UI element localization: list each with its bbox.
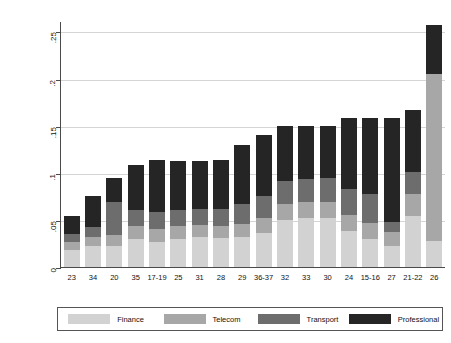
legend-item-professional[interactable]: Professional <box>346 314 442 324</box>
bar-segment-finance <box>405 216 421 267</box>
bar-segment-telecom <box>341 215 357 231</box>
x-tick-label: 20 <box>104 273 125 282</box>
bar-segment-transport <box>149 212 165 229</box>
legend-swatch-finance <box>68 314 110 324</box>
legend-label: Transport <box>307 315 339 324</box>
bar-segment-professional <box>106 178 122 202</box>
bar-segment-professional <box>64 216 80 234</box>
bar-segment-professional <box>192 161 208 208</box>
legend-label: Finance <box>117 315 144 324</box>
legend-swatch-professional <box>349 314 391 324</box>
bar-segment-finance <box>277 220 293 267</box>
x-tick-label: 15-16 <box>360 273 381 282</box>
x-tick-label: 34 <box>82 273 103 282</box>
stacked-bar-chart: Services input intensity in manufacturin… <box>0 0 451 343</box>
legend-swatch-transport <box>258 314 300 324</box>
bar-column[interactable] <box>106 178 122 267</box>
y-tick-label: .1 <box>49 174 58 181</box>
bar-segment-professional <box>170 161 186 209</box>
bar-segment-transport <box>64 234 80 242</box>
bar-segment-telecom <box>106 235 122 246</box>
bar-column[interactable] <box>405 110 421 267</box>
bar-column[interactable] <box>256 135 272 267</box>
bar-segment-finance <box>298 218 314 267</box>
bar-column[interactable] <box>362 118 378 267</box>
x-tick-label: 35 <box>125 273 146 282</box>
bar-segment-finance <box>85 246 101 267</box>
legend-item-finance[interactable]: Finance <box>58 314 154 324</box>
bar-segment-telecom <box>426 74 442 241</box>
bar-segment-transport <box>384 222 400 232</box>
bar-segment-professional <box>426 25 442 74</box>
bar-segment-finance <box>256 233 272 267</box>
x-tick-label: 31 <box>189 273 210 282</box>
legend-swatch-telecom <box>164 314 206 324</box>
bar-column[interactable] <box>277 126 293 267</box>
legend-label: Professional <box>398 315 439 324</box>
bar-segment-professional <box>256 135 272 196</box>
bar-column[interactable] <box>384 118 400 267</box>
x-tick-label: 29 <box>232 273 253 282</box>
bar-segment-finance <box>106 246 122 267</box>
bar-segment-finance <box>64 250 80 267</box>
bar-segment-transport <box>106 202 122 235</box>
bar-column[interactable] <box>298 126 314 267</box>
bar-column[interactable] <box>192 161 208 267</box>
bar-column[interactable] <box>128 165 144 267</box>
y-tick-label: 0 <box>49 268 58 272</box>
x-axis-line <box>60 267 445 268</box>
bar-segment-transport <box>362 194 378 222</box>
bar-column[interactable] <box>320 126 336 267</box>
bar-segment-finance <box>149 242 165 267</box>
bar-segment-transport <box>320 178 336 202</box>
bar-column[interactable] <box>170 161 186 267</box>
bar-segment-telecom <box>277 204 293 220</box>
bar-segment-telecom <box>298 202 314 218</box>
y-tick-label: .15 <box>49 127 58 138</box>
bar-segment-finance <box>426 241 442 267</box>
bar-segment-transport <box>213 209 229 226</box>
x-tick-label: 23 <box>61 273 82 282</box>
legend-item-transport[interactable]: Transport <box>250 314 346 324</box>
bar-column[interactable] <box>64 216 80 267</box>
y-tick-label: .2 <box>49 80 58 87</box>
x-axis-tick-labels: 2334203517-192531282936-373233302415-162… <box>61 270 445 284</box>
bar-column[interactable] <box>85 196 101 267</box>
bar-segment-professional <box>362 118 378 194</box>
bar-segment-transport <box>234 204 250 224</box>
bar-segment-finance <box>320 218 336 267</box>
bar-segment-transport <box>192 209 208 225</box>
bar-column[interactable] <box>149 160 165 267</box>
x-tick-label: 25 <box>168 273 189 282</box>
bar-segment-telecom <box>170 226 186 238</box>
bar-segment-telecom <box>320 202 336 218</box>
bar-segment-telecom <box>192 225 208 237</box>
bar-segment-transport <box>128 210 144 226</box>
x-tick-label: 17-19 <box>146 273 167 282</box>
bar-segment-transport <box>277 181 293 204</box>
bar-column[interactable] <box>426 25 442 267</box>
bar-segment-professional <box>320 126 336 179</box>
bar-segment-transport <box>341 189 357 215</box>
x-tick-label: 30 <box>317 273 338 282</box>
bar-column[interactable] <box>341 118 357 267</box>
bar-segment-telecom <box>256 218 272 233</box>
bar-segment-transport <box>256 196 272 218</box>
bar-segment-professional <box>298 126 314 180</box>
bar-segment-professional <box>213 160 229 209</box>
legend-label: Telecom <box>213 315 241 324</box>
bar-segment-finance <box>341 231 357 267</box>
bar-column[interactable] <box>213 160 229 267</box>
legend-item-telecom[interactable]: Telecom <box>154 314 250 324</box>
x-tick-label: 24 <box>338 273 359 282</box>
x-tick-label: 27 <box>381 273 402 282</box>
bar-segment-transport <box>298 179 314 202</box>
bar-column[interactable] <box>234 145 250 267</box>
bar-segment-transport <box>405 172 421 195</box>
x-tick-label: 36-37 <box>253 273 274 282</box>
bar-segment-professional <box>149 160 165 213</box>
bar-segment-telecom <box>405 194 421 216</box>
x-tick-label: 32 <box>274 273 295 282</box>
x-tick-label: 26 <box>424 273 445 282</box>
bar-segment-professional <box>341 118 357 189</box>
